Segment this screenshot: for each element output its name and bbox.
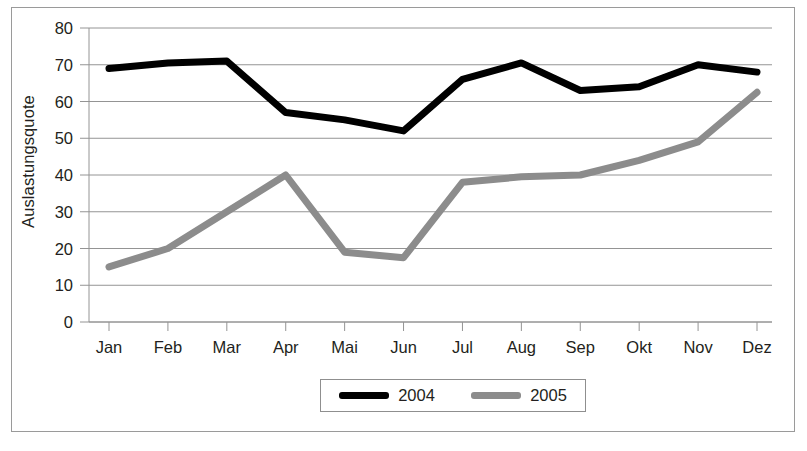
y-tick-label: 30	[55, 203, 73, 221]
chart-legend: 2004 2005	[320, 379, 586, 412]
y-tick-label: 20	[55, 240, 73, 258]
x-tick-label: Dez	[742, 338, 771, 356]
x-tick-label: Apr	[273, 338, 299, 356]
x-tick-label: Okt	[626, 338, 652, 356]
x-tick-label: Feb	[154, 338, 182, 356]
series-line-2005	[109, 92, 757, 267]
y-tick-label: 70	[55, 56, 73, 74]
y-tick-label: 80	[55, 19, 73, 37]
x-tick-marks-group	[109, 322, 757, 331]
chart-container: Auslastungsquote 01020304050607080 JanFe…	[0, 0, 807, 451]
series-line-2004	[109, 61, 757, 131]
y-tick-label: 0	[64, 313, 73, 331]
y-tick-label: 60	[55, 93, 73, 111]
y-tick-marks-group	[80, 28, 89, 322]
x-tick-label: Jul	[452, 338, 473, 356]
x-tick-label: Jun	[390, 338, 417, 356]
legend-swatch-2005	[471, 392, 521, 399]
y-tick-label: 10	[55, 276, 73, 294]
x-tick-label: Nov	[683, 338, 713, 356]
legend-label-2005: 2005	[530, 387, 567, 404]
x-tick-label: Mar	[213, 338, 242, 356]
data-series-group	[109, 61, 757, 267]
legend-entry-2005: 2005	[471, 387, 567, 404]
legend-entry-2004: 2004	[339, 387, 435, 404]
x-tick-label: Jan	[96, 338, 123, 356]
x-tick-labels-group: JanFebMarAprMaiJunJulAugSepOktNovDez	[96, 338, 772, 356]
legend-label-2004: 2004	[398, 387, 435, 404]
y-tick-label: 40	[55, 166, 73, 184]
x-tick-label: Aug	[507, 338, 536, 356]
legend-swatch-2004	[339, 392, 389, 399]
y-tick-label: 50	[55, 129, 73, 147]
x-tick-label: Mai	[331, 338, 358, 356]
x-tick-label: Sep	[566, 338, 595, 356]
y-tick-labels-group: 01020304050607080	[55, 19, 73, 331]
